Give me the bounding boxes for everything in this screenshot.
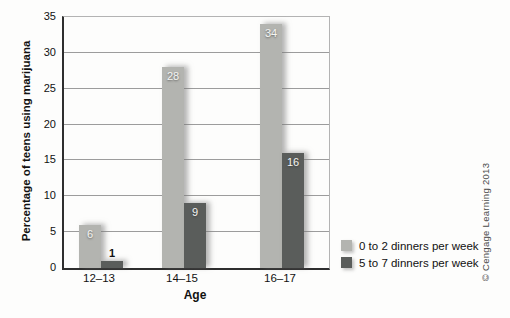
gridline-30: [64, 52, 329, 53]
bar-series1-16–17: 34: [260, 24, 282, 268]
bar-series1-12–13: 6: [79, 225, 101, 268]
bar-value-label: 34: [260, 27, 282, 39]
bar-series2-14–15: 9: [184, 203, 206, 268]
gridline-25: [64, 88, 329, 89]
x-tick-label-16–17: 16–17: [248, 272, 312, 284]
legend-item-1: 0 to 2 dinners per week: [341, 238, 479, 253]
bar-value-label: 1: [101, 247, 123, 259]
bar-value-label: 28: [162, 70, 184, 82]
legend-swatch-2: [341, 257, 352, 268]
y-tick-label-35: 35: [28, 9, 56, 23]
y-tick-label-20: 20: [28, 117, 56, 131]
x-axis-title: Age: [165, 288, 225, 302]
x-tick-label-14–15: 14–15: [150, 272, 214, 284]
legend-label-2: 5 to 7 dinners per week: [359, 257, 479, 269]
bar-value-label: 16: [282, 156, 304, 168]
y-tick-label-5: 5: [28, 224, 56, 238]
legend: 0 to 2 dinners per week5 to 7 dinners pe…: [341, 238, 479, 272]
y-tick-label-15: 15: [28, 152, 56, 166]
legend-swatch-1: [341, 240, 352, 251]
bar-series2-16–17: 16: [282, 153, 304, 268]
gridline-20: [64, 124, 329, 125]
y-tick-label-10: 10: [28, 188, 56, 202]
y-tick-label-0: 0: [28, 260, 56, 274]
bar-value-label: 9: [184, 206, 206, 218]
copyright-credit: © Cengage Learning 2013: [480, 157, 492, 287]
legend-item-2: 5 to 7 dinners per week: [341, 255, 479, 270]
y-tick-label-30: 30: [28, 45, 56, 59]
x-tick-label-12–13: 12–13: [67, 272, 131, 284]
legend-label-1: 0 to 2 dinners per week: [359, 240, 479, 252]
plot-area: 612893416: [62, 16, 330, 270]
bar-series2-12–13: [101, 261, 123, 268]
bar-value-label: 6: [79, 228, 101, 240]
y-tick-label-25: 25: [28, 81, 56, 95]
bar-chart-figure: Percentage of teens using marijuana 6128…: [0, 0, 510, 318]
bar-series1-14–15: 28: [162, 67, 184, 268]
